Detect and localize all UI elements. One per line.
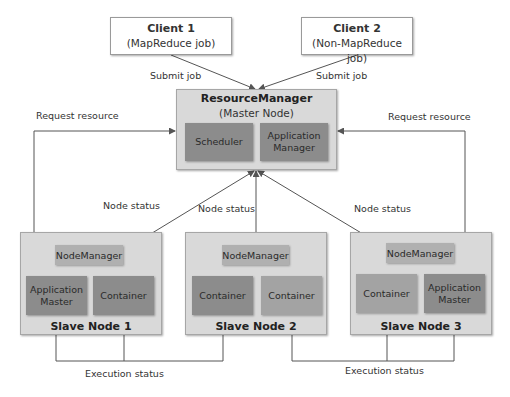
execution-status-label-1: Execution status bbox=[85, 368, 164, 379]
request-resource-label-left: Request resource bbox=[36, 110, 119, 121]
submit-job-label-2: Submit job bbox=[316, 70, 367, 81]
slave-node-3-container: Container bbox=[356, 274, 417, 313]
client-2-name: Client 2 bbox=[302, 21, 412, 36]
submit-job-label-1: Submit job bbox=[150, 70, 201, 81]
client-2-job: (Non-MapReduce job) bbox=[312, 37, 402, 64]
resource-manager-subtitle: (Master Node) bbox=[176, 107, 337, 119]
slave-node-2-container-2: Container bbox=[261, 276, 322, 315]
application-manager-box: Application Manager bbox=[260, 123, 328, 161]
client-2-box: Client 2 (Non-MapReduce job) bbox=[301, 17, 413, 55]
node-status-label-3: Node status bbox=[354, 203, 411, 214]
node-status-label-1: Node status bbox=[103, 200, 160, 211]
connector-lines bbox=[0, 0, 510, 397]
slave-node-2-node-manager: NodeManager bbox=[222, 245, 289, 265]
execution-status-label-2: Execution status bbox=[345, 365, 424, 376]
client-1-name: Client 1 bbox=[111, 21, 231, 36]
slave-node-2-title: Slave Node 2 bbox=[185, 320, 327, 333]
slave-node-1-application-master: Application Master bbox=[26, 276, 87, 315]
slave-node-3-title: Slave Node 3 bbox=[350, 320, 492, 333]
slave-node-3-node-manager: NodeManager bbox=[386, 243, 454, 263]
slave-node-1-node-manager: NodeManager bbox=[55, 245, 123, 265]
node-status-label-2: Node status bbox=[198, 203, 255, 214]
slave-node-2-container-1: Container bbox=[192, 276, 253, 315]
request-resource-label-right: Request resource bbox=[388, 111, 471, 122]
client-1-box: Client 1 (MapReduce job) bbox=[110, 17, 232, 55]
scheduler-box: Scheduler bbox=[185, 123, 253, 161]
slave-node-3-application-master: Application Master bbox=[424, 274, 485, 313]
client-1-job: (MapReduce job) bbox=[127, 37, 216, 49]
slave-node-1-container: Container bbox=[93, 276, 154, 315]
resource-manager-title: ResourceManager bbox=[176, 92, 337, 105]
slave-node-1-title: Slave Node 1 bbox=[20, 320, 162, 333]
